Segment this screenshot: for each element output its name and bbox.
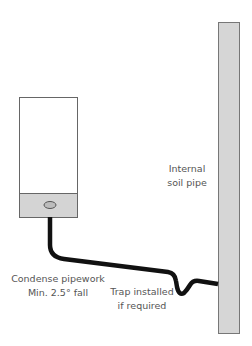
trap-label-line1: Trap installed — [109, 286, 174, 297]
soil-pipe-label-line2: soil pipe — [167, 177, 207, 188]
pipework-label-line2: Min. 2.5° fall — [28, 287, 88, 298]
boiler-body — [20, 98, 78, 194]
pipework-label-line1: Condense pipework — [11, 273, 105, 284]
boiler — [20, 98, 78, 218]
internal-soil-pipe — [219, 23, 240, 334]
soil-pipe-label-line1: Internal — [169, 163, 206, 174]
condensate-outlet-icon — [44, 202, 56, 209]
trap-label-line2: if required — [118, 300, 167, 311]
condense-pipe-diagram: Internal soil pipe Condense pipework Min… — [0, 0, 252, 346]
